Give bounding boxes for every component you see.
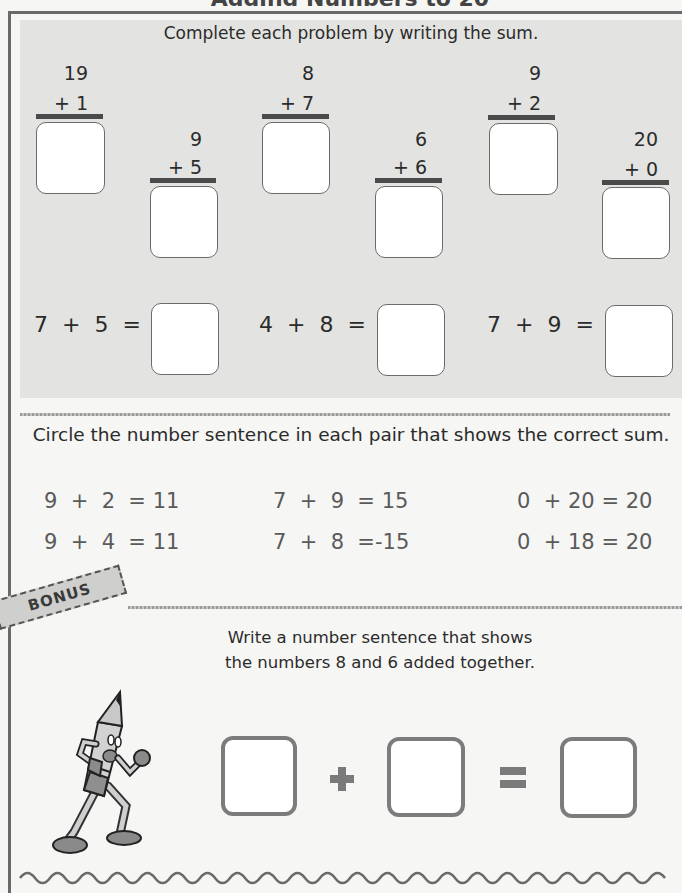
frame-left-border [8, 11, 11, 893]
bonus-addend-2-box[interactable] [387, 737, 465, 817]
problem-5-top: 9 [489, 62, 541, 84]
horizontal-problem-2: 4 + 8 = [259, 312, 366, 337]
problem-4-answer-box[interactable] [375, 186, 443, 258]
section-1-instruction: Complete each problem by writing the sum… [20, 23, 682, 43]
horizontal-problem-1-answer-box[interactable] [151, 303, 219, 375]
plus-sign-icon [330, 767, 354, 791]
problem-3-bar [262, 114, 329, 119]
problem-3-top: 8 [262, 62, 314, 84]
problem-5-answer-box[interactable] [489, 123, 558, 195]
problem-2-answer-box[interactable] [150, 186, 218, 258]
pair-3-option-a[interactable]: 0 + 20 = 20 [517, 489, 652, 513]
page-title: Adding Numbers to 20 [200, 0, 500, 6]
problem-2-bar [150, 178, 216, 183]
equals-sign-icon [500, 767, 526, 789]
problem-5-bar [488, 115, 555, 120]
horizontal-problem-3: 7 + 9 = [487, 312, 594, 337]
bonus-instruction-line-1: Write a number sentence that shows [80, 628, 680, 647]
horizontal-problem-3-answer-box[interactable] [605, 305, 673, 377]
problem-6-answer-box[interactable] [602, 187, 670, 259]
pair-3-option-b[interactable]: 0 + 18 = 20 [517, 530, 652, 554]
bonus-divider [128, 606, 682, 609]
bonus-badge-label: BONUS [26, 580, 93, 615]
pair-2-option-b[interactable]: 7 + 8 =-15 [273, 530, 409, 554]
problem-4-top: 6 [375, 128, 427, 150]
pair-1-option-a[interactable]: 9 + 2 = 11 [44, 489, 179, 513]
section-2-instruction: Circle the number sentence in each pair … [20, 424, 682, 445]
section-divider-1 [20, 413, 670, 416]
pair-1-option-b[interactable]: 9 + 4 = 11 [44, 530, 179, 554]
section-1-background [20, 20, 682, 398]
problem-1-bar [36, 114, 103, 119]
problem-2-top: 9 [150, 128, 202, 150]
bonus-badge: BONUS [0, 565, 127, 630]
problem-6-top: 20 [602, 128, 658, 150]
problem-6-bar [602, 180, 669, 185]
frame-top-border [8, 11, 682, 14]
problem-3-bottom: + 7 [262, 92, 314, 114]
problem-1-bottom: + 1 [36, 92, 88, 114]
bonus-instruction-line-2: the numbers 8 and 6 added together. [80, 653, 680, 672]
problem-2-bottom: + 5 [150, 156, 202, 178]
problem-4-bar [375, 178, 442, 183]
pair-2-option-a[interactable]: 7 + 9 = 15 [273, 489, 408, 513]
horizontal-problem-1: 7 + 5 = [34, 312, 141, 337]
bonus-sum-box[interactable] [560, 737, 637, 818]
problem-1-top: 19 [36, 62, 88, 84]
problem-6-bottom: + 0 [602, 158, 658, 180]
pencil-character-icon [38, 682, 158, 862]
wavy-footer-line [18, 864, 682, 888]
problem-1-answer-box[interactable] [36, 122, 105, 194]
bonus-addend-1-box[interactable] [221, 736, 297, 816]
problem-4-bottom: + 6 [375, 156, 427, 178]
problem-5-bottom: + 2 [489, 92, 541, 114]
problem-3-answer-box[interactable] [262, 122, 330, 194]
horizontal-problem-2-answer-box[interactable] [377, 304, 445, 376]
